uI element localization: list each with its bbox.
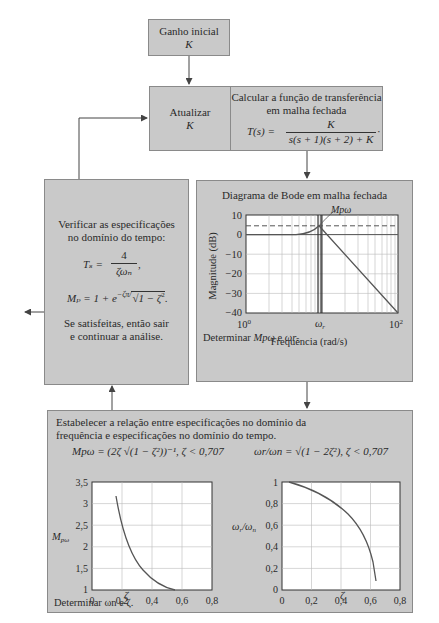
verify-line1: Verificar as especificações <box>45 218 188 231</box>
svg-text:102: 102 <box>389 318 404 330</box>
svg-text:ωr/ωn: ωr/ωn <box>232 521 257 534</box>
svg-text:0: 0 <box>90 595 95 606</box>
initial-gain-block: Ganho inicial K <box>148 19 230 56</box>
relation-line2: frequência e especificações no domínio d… <box>56 429 276 442</box>
svg-text:−40: −40 <box>226 307 242 318</box>
svg-text:0,8: 0,8 <box>394 595 407 606</box>
svg-text:1: 1 <box>83 584 88 595</box>
svg-text:Magnitude (dB): Magnitude (dB) <box>207 232 219 300</box>
svg-text:ζ: ζ <box>340 589 346 602</box>
relation-line1: Estabelecer a relação entre especificaçõ… <box>56 416 306 429</box>
svg-text:0,6: 0,6 <box>176 595 189 606</box>
svg-text:−30: −30 <box>226 288 242 299</box>
svg-text:Frequência (rad/s): Frequência (rad/s) <box>271 336 348 348</box>
relation-eq-right: ωr/ωn = √(1 − 2ζ²), ζ < 0,707 <box>254 445 388 457</box>
mp-equation: Mₚ = 1 + e−ζπ/√1 − ζ2. <box>67 288 168 305</box>
svg-text:ωr: ωr <box>315 318 325 331</box>
svg-text:−10: −10 <box>226 249 242 260</box>
svg-text:0,8: 0,8 <box>266 498 279 509</box>
svg-text:0,8: 0,8 <box>206 595 219 606</box>
ts-fraction-bar <box>111 263 137 264</box>
transfer-function-end: · <box>377 125 381 138</box>
wr-wn-vs-zeta-plot: 10,80,6 0,40,20 ωr/ωn 00,20,4 0,60,8 <box>230 480 430 610</box>
svg-text:100: 100 <box>237 318 252 330</box>
verify-line4: e continuar a análise. <box>45 330 188 343</box>
svg-text:3: 3 <box>83 498 88 509</box>
update-k-block: Atualizar K <box>149 86 231 151</box>
relation-eq-left: Mpω = (2ζ √(1 − ζ²))⁻¹, ζ < 0,707 <box>72 445 224 457</box>
svg-text:0,6: 0,6 <box>266 520 279 531</box>
svg-text:Mpω: Mpω <box>51 531 69 544</box>
wr-zeta-xlabel: ζ <box>335 588 355 602</box>
svg-text:10: 10 <box>232 210 243 221</box>
svg-text:0: 0 <box>280 595 285 606</box>
svg-text:0: 0 <box>237 229 242 240</box>
svg-text:2: 2 <box>83 541 88 552</box>
svg-text:2,5: 2,5 <box>76 520 89 531</box>
svg-text:0,2: 0,2 <box>266 563 279 574</box>
svg-text:0,6: 0,6 <box>364 595 377 606</box>
update-symbol: K <box>186 119 193 131</box>
arrow-verify-to-update <box>79 118 147 179</box>
bode-plot: 100 −10−20 −30−40 Magnitude (dB) 100 ωr … <box>196 180 413 382</box>
svg-text:1,5: 1,5 <box>76 563 89 574</box>
svg-text:0: 0 <box>273 584 278 595</box>
mpw-vs-zeta-plot: 3,532,5 21,51 Mpω 00,20,4 0,60,8 <box>47 480 247 610</box>
verify-time-specs-block: Verificar as especificações no domínio d… <box>44 179 189 385</box>
svg-text:ζ: ζ <box>124 589 130 602</box>
initial-gain-symbol: K <box>185 38 192 50</box>
ts-numerator: 4 <box>111 249 137 262</box>
compute-line2: em malha fechada <box>231 104 382 117</box>
svg-text:1: 1 <box>273 477 278 488</box>
ts-end: , <box>138 258 141 271</box>
verify-line3: Se satisfeitas, então sair <box>45 317 188 330</box>
svg-text:3,5: 3,5 <box>76 477 89 488</box>
svg-text:0,2: 0,2 <box>305 595 318 606</box>
svg-text:0,4: 0,4 <box>266 541 279 552</box>
update-label: Atualizar <box>150 106 230 119</box>
svg-text:−20: −20 <box>226 268 242 279</box>
ts-denominator: ζωₙ <box>116 265 132 277</box>
verify-line2: no domínio do tempo: <box>45 231 188 244</box>
svg-text:0,4: 0,4 <box>146 595 159 606</box>
ts-lhs: Tₛ = <box>83 258 103 270</box>
compute-transfer-function-block: Calcular a função de transferência em ma… <box>230 86 383 151</box>
initial-gain-label: Ganho inicial <box>149 25 229 38</box>
mpw-zeta-xlabel: ζ <box>119 588 139 602</box>
compute-line1: Calcular a função de transferência <box>231 91 382 104</box>
transfer-function-lhs: T(s) = <box>247 125 275 137</box>
transfer-function-numerator: K <box>327 118 334 130</box>
transfer-function-denominator: s(s + 1)(s + 2) + K <box>289 133 374 145</box>
